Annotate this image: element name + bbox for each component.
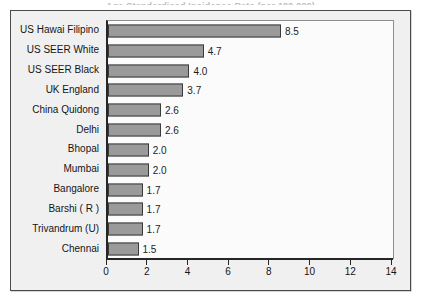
x-tick-label: 4 [185, 266, 191, 278]
chart-title-text: Age Standardised Incidence Rate (per 100… [106, 2, 315, 5]
bar-row: 2.0 [108, 140, 393, 160]
bar-value-label: 1.7 [147, 224, 161, 235]
x-tick-mark [106, 260, 107, 265]
category-label: US Hawai Filipino [11, 20, 103, 40]
bar-value-label: 1.5 [143, 244, 157, 255]
category-label: UK England [11, 79, 103, 99]
x-tick-label: 8 [266, 266, 272, 278]
bar-row: 1.7 [108, 199, 393, 219]
x-tick-label: 6 [225, 266, 231, 278]
bar [108, 44, 204, 57]
category-label: Delhi [11, 119, 103, 139]
bar-value-label: 4.7 [208, 45, 222, 56]
bar-row: 3.7 [108, 80, 393, 100]
x-tick-mark [309, 260, 310, 265]
bar-value-label: 1.7 [147, 184, 161, 195]
bar-row: 4.7 [108, 41, 393, 61]
bar [108, 124, 161, 137]
x-tick-label: 10 [304, 266, 315, 278]
plot-wrapper: US Hawai FilipinoUS SEER WhiteUS SEER Bl… [11, 11, 412, 292]
bar-rows: 8.54.74.03.72.62.62.02.01.71.71.71.5 [108, 21, 393, 259]
bar [108, 183, 143, 196]
bar [108, 243, 139, 256]
bar-row: 8.5 [108, 21, 393, 41]
bar-value-label: 2.0 [153, 144, 167, 155]
x-tick-mark [228, 260, 229, 265]
bar-value-label: 8.5 [285, 25, 299, 36]
bar-value-label: 1.7 [147, 204, 161, 215]
category-label: Barshi ( R ) [11, 198, 103, 218]
bar-value-label: 2.6 [165, 125, 179, 136]
bar-value-label: 2.6 [165, 105, 179, 116]
chart-title-cutoff: Age Standardised Incidence Rate (per 100… [0, 0, 421, 5]
category-label: US SEER Black [11, 60, 103, 80]
x-tick-mark [268, 260, 269, 265]
category-label: Trivandrum (U) [11, 218, 103, 238]
x-tick-mark [187, 260, 188, 265]
bar [108, 223, 143, 236]
bar-row: 2.0 [108, 160, 393, 180]
plot-area: 8.54.74.03.72.62.62.02.01.71.71.71.5 [106, 20, 394, 259]
x-tick-label: 14 [385, 266, 396, 278]
category-label: Mumbai [11, 159, 103, 179]
chart-screenshot: Age Standardised Incidence Rate (per 100… [0, 0, 421, 299]
bar-row: 1.7 [108, 219, 393, 239]
bar-value-label: 3.7 [187, 85, 201, 96]
x-tick-label: 0 [103, 266, 109, 278]
category-label: Bangalore [11, 179, 103, 199]
category-axis-labels: US Hawai FilipinoUS SEER WhiteUS SEER Bl… [11, 20, 103, 258]
x-axis-ticks: 02468101214 [106, 260, 391, 282]
bar [108, 104, 161, 117]
bar-row: 4.0 [108, 61, 393, 81]
category-label: China Quidong [11, 99, 103, 119]
bar-row: 2.6 [108, 100, 393, 120]
x-tick-label: 2 [144, 266, 150, 278]
bar [108, 203, 143, 216]
chart-frame: US Hawai FilipinoUS SEER WhiteUS SEER Bl… [10, 10, 411, 291]
bar-row: 1.7 [108, 180, 393, 200]
category-label: Chennai [11, 238, 103, 258]
x-tick-mark [350, 260, 351, 265]
bar [108, 84, 183, 97]
bar-value-label: 4.0 [193, 65, 207, 76]
bar-value-label: 2.0 [153, 164, 167, 175]
bar-row: 1.5 [108, 239, 393, 259]
bar [108, 143, 149, 156]
x-tick-mark [391, 260, 392, 265]
bar [108, 163, 149, 176]
x-tick-label: 12 [345, 266, 356, 278]
bar-row: 2.6 [108, 120, 393, 140]
category-label: US SEER White [11, 40, 103, 60]
category-label: Bhopal [11, 139, 103, 159]
bar [108, 64, 189, 77]
bar [108, 24, 281, 37]
x-tick-mark [146, 260, 147, 265]
